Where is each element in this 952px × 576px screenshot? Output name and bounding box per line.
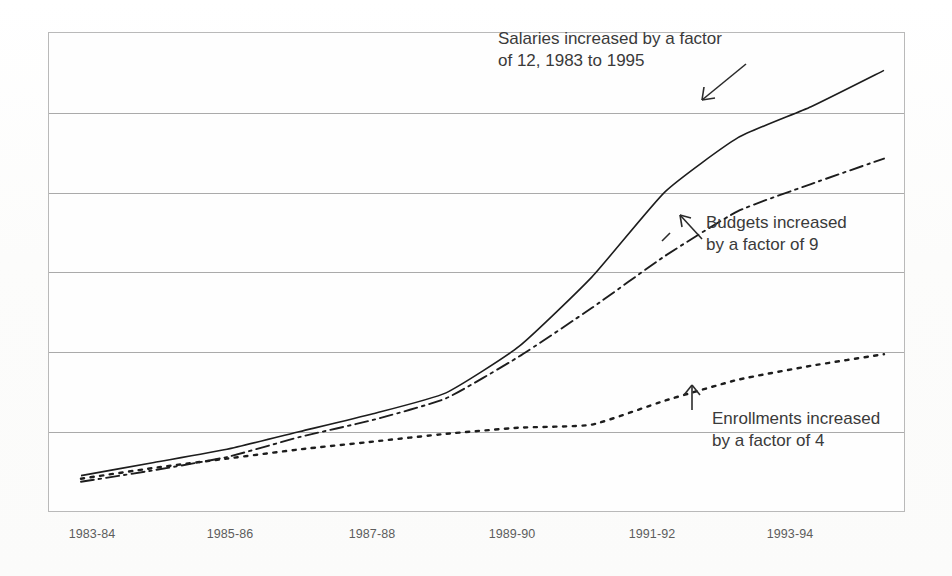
xtick-label: 1983-84 bbox=[69, 527, 116, 541]
arrow-enrollments-icon bbox=[678, 382, 710, 412]
xtick-label: 1989-90 bbox=[489, 527, 536, 541]
arrow-salaries-icon bbox=[700, 62, 760, 106]
xtick-label: 1993-94 bbox=[767, 527, 814, 541]
xtick-label: 1987-88 bbox=[349, 527, 396, 541]
chart-page: 1983-84 1985-86 1987-88 1989-90 1991-92 … bbox=[0, 0, 952, 576]
annotation-enrollments: Enrollments increased by a factor of 4 bbox=[712, 408, 880, 452]
annotation-budgets: Budgets increased by a factor of 9 bbox=[706, 212, 847, 256]
xtick-label: 1985-86 bbox=[207, 527, 254, 541]
arrow-budgets-icon bbox=[660, 205, 708, 245]
xtick-label: 1991-92 bbox=[629, 527, 676, 541]
annotation-salaries: Salaries increased by a factor of 12, 19… bbox=[498, 28, 722, 72]
